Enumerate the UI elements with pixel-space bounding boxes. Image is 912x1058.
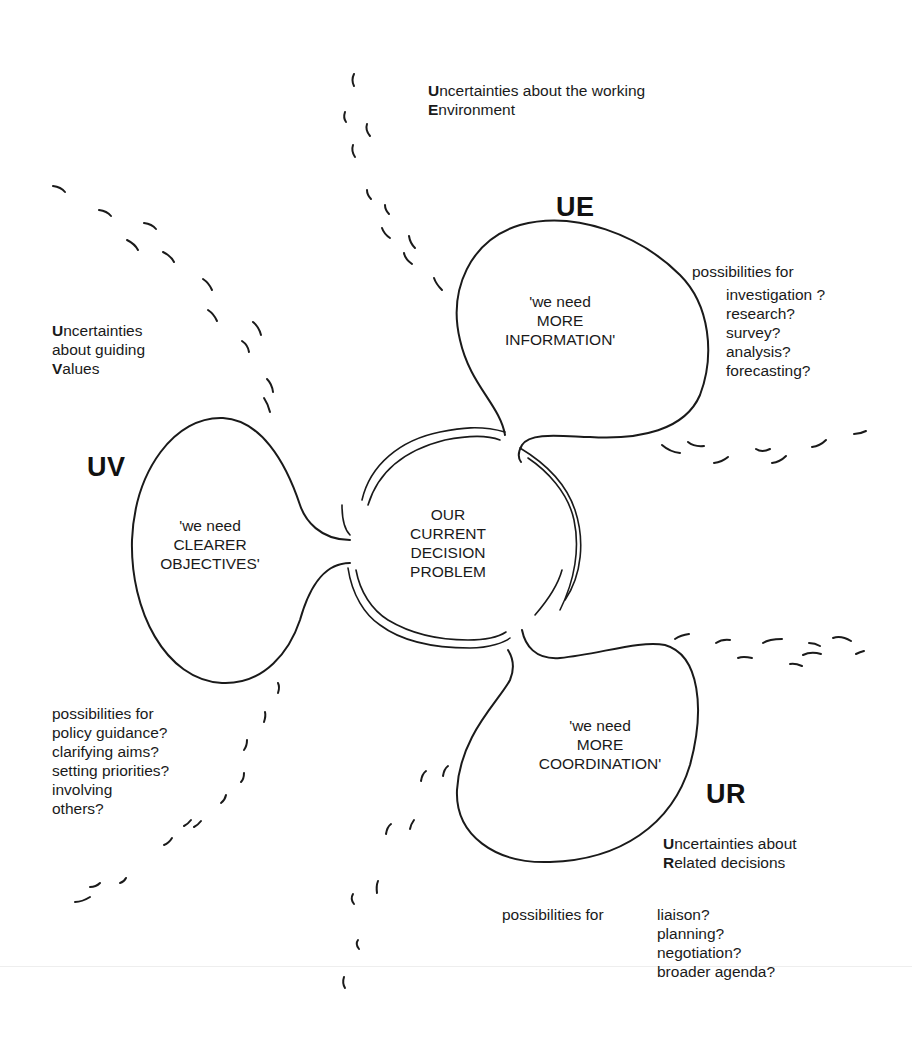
uv-code: UV [87, 452, 126, 482]
ue-possibility-item: analysis? [726, 342, 825, 361]
ue-possibility-item: forecasting? [726, 361, 825, 380]
ue-bubble-text: 'we need MORE INFORMATION' [505, 292, 615, 349]
ur-boundary-dashes-lower [343, 766, 448, 988]
ue-bubble-line: INFORMATION' [505, 330, 615, 349]
center-line: PROBLEM [398, 562, 498, 581]
ue-boundary-dashes-right [662, 431, 866, 463]
uv-bubble-line: 'we need [155, 516, 265, 535]
ur-heading-initial-u: U [663, 835, 674, 852]
ur-bubble-line: 'we need [530, 716, 670, 735]
ue-bubble-line: MORE [505, 311, 615, 330]
uv-possibility-item: others? [52, 799, 169, 818]
ue-heading-initial-e: E [428, 101, 438, 118]
ur-possibility-item: planning? [657, 924, 775, 943]
ur-bubble-text: 'we need MORE COORDINATION' [530, 716, 670, 773]
ue-possibility-item: research? [726, 304, 825, 323]
ur-possibilities-list: liaison? planning? negotiation? broader … [657, 905, 775, 981]
ur-possibility-item: liaison? [657, 905, 775, 924]
ur-possibility-item: negotiation? [657, 943, 775, 962]
uv-possibility-item: policy guidance? [52, 723, 169, 742]
ue-heading: Uncertainties about the working Environm… [428, 81, 645, 119]
uv-bubble-line: CLEARER [155, 535, 265, 554]
center-line: DECISION [398, 543, 498, 562]
ur-heading-line2: elated decisions [674, 854, 785, 871]
center-line: OUR [398, 505, 498, 524]
ue-possibilities-list: investigation ? research? survey? analys… [726, 285, 825, 380]
ur-heading-initial-r: R [663, 854, 674, 871]
uv-possibilities-list: possibilities for policy guidance? clari… [52, 704, 169, 818]
uv-possibility-item: clarifying aims? [52, 742, 169, 761]
ur-bubble-line: MORE [530, 735, 670, 754]
ue-possibilities-label: possibilities for [692, 262, 794, 281]
uv-heading-line2: about guiding [52, 340, 145, 359]
ue-code: UE [556, 192, 595, 222]
ur-possibilities-label: possibilities for [502, 905, 604, 924]
uv-bubble-line: OBJECTIVES' [155, 554, 265, 573]
ue-heading-line2: nvironment [438, 101, 515, 118]
ur-bubble-line: COORDINATION' [530, 754, 670, 773]
center-problem-text: OUR CURRENT DECISION PROBLEM [398, 505, 498, 581]
uv-possibility-item: involving [52, 780, 169, 799]
uv-possibility-item: setting priorities? [52, 761, 169, 780]
ue-possibility-item: survey? [726, 323, 825, 342]
ur-boundary-dashes-right [675, 634, 864, 666]
ue-bubble-line: 'we need [505, 292, 615, 311]
ue-heading-initial-u: U [428, 82, 439, 99]
center-line: CURRENT [398, 524, 498, 543]
uv-heading: Uncertainties about guiding Values [52, 321, 145, 378]
ue-heading-line1: ncertainties about the working [439, 82, 645, 99]
uv-boundary-dashes-upper [53, 186, 273, 412]
ur-heading: Uncertainties about Related decisions [663, 834, 797, 872]
uv-heading-initial-v: V [52, 360, 62, 377]
ur-possibility-item: broader agenda? [657, 962, 775, 981]
uv-heading-line3: alues [62, 360, 99, 377]
ue-possibility-item: investigation ? [726, 285, 825, 304]
ur-code: UR [706, 779, 746, 809]
uv-bubble-text: 'we need CLEARER OBJECTIVES' [155, 516, 265, 573]
ur-heading-line1: ncertainties about [674, 835, 796, 852]
uv-heading-line1: ncertainties [63, 322, 142, 339]
uv-possibilities-label: possibilities for [52, 704, 169, 723]
uv-heading-initial-u: U [52, 322, 63, 339]
